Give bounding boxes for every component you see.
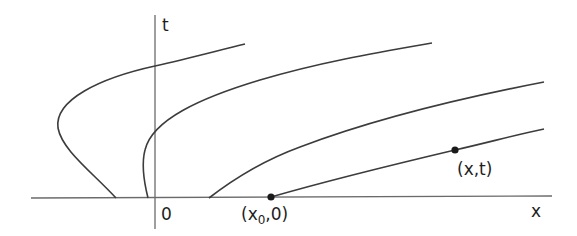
point-x0 xyxy=(267,193,274,200)
point-x0-label: (x0,0) xyxy=(241,204,288,227)
point-xt-label: (x,t) xyxy=(457,159,492,179)
t-axis-label: t xyxy=(162,15,169,35)
origin-label: 0 xyxy=(161,204,172,224)
characteristics-diagram: t 0 x (x0,0) (x,t) xyxy=(0,0,577,236)
x-axis-label: x xyxy=(531,201,541,221)
point-x0-label-main: (x xyxy=(241,204,258,224)
point-xt xyxy=(451,146,458,153)
curve-2 xyxy=(143,43,432,198)
point-x0-label-sub: 0 xyxy=(258,213,266,227)
diagram-canvas: t 0 x (x0,0) (x,t) xyxy=(0,0,577,236)
point-x0-label-tail: ,0) xyxy=(265,204,288,224)
curve-4 xyxy=(271,129,544,197)
x-axis xyxy=(31,196,552,198)
curve-1 xyxy=(58,44,245,198)
